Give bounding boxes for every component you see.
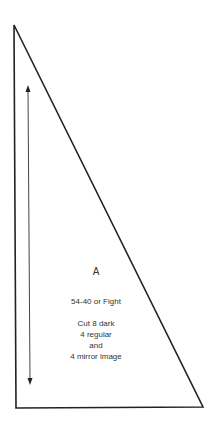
cut-instruction-1: Cut 8 dark	[36, 318, 156, 329]
cut-instruction-3: and	[36, 340, 156, 351]
grain-line-arrow-icon	[26, 85, 33, 385]
cut-instruction-4: 4 mirror image	[36, 351, 156, 362]
pattern-name: 54-40 or Fight	[36, 296, 156, 307]
piece-letter: A	[36, 266, 156, 277]
cut-instruction-2: 4 regular	[36, 329, 156, 340]
